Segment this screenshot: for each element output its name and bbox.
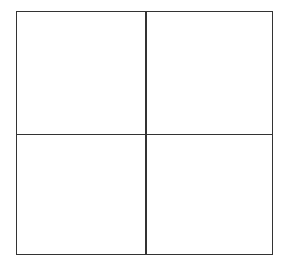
grid-cell-top-right xyxy=(146,12,272,133)
horizontal-divider xyxy=(17,134,272,136)
two-by-two-grid xyxy=(16,11,273,255)
grid-cell-bottom-left xyxy=(17,134,145,254)
grid-cell-bottom-right xyxy=(146,134,272,254)
grid-cell-top-left xyxy=(17,12,145,133)
